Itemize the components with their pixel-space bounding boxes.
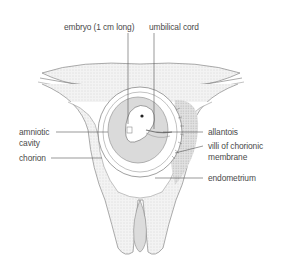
embryo-uterus-diagram: embryo (1 cm long) umbilical cord amniot… — [0, 0, 281, 278]
label-endometrium: endometrium — [208, 173, 256, 183]
label-amniotic-cavity-line1: amniotic — [19, 127, 49, 137]
label-embryo: embryo (1 cm long) — [64, 22, 134, 32]
label-villi-line2: membrane — [208, 152, 247, 162]
label-chorion: chorion — [19, 153, 46, 163]
label-amniotic-cavity-line2: cavity — [19, 138, 40, 148]
diagram-drawing — [0, 0, 281, 278]
label-allantois: allantois — [208, 127, 238, 137]
label-umbilical-cord: umbilical cord — [149, 22, 199, 32]
label-villi-line1: villi of chorionic — [208, 141, 263, 151]
